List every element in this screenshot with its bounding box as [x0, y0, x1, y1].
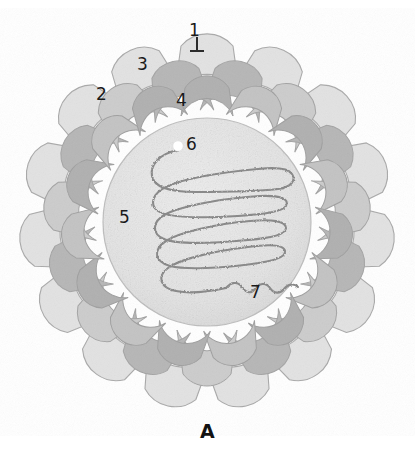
label-4: 4: [176, 92, 187, 109]
figure-panel: 1 2 3 4 5 6 7 A: [0, 0, 415, 458]
virus-particle-illustration: [0, 0, 415, 458]
label-5: 5: [119, 209, 130, 226]
label-6: 6: [186, 136, 197, 153]
panel-label: A: [0, 420, 415, 442]
label-1: 1: [189, 22, 200, 39]
label-3: 3: [137, 56, 148, 73]
genome-end-marker-dot: [173, 141, 183, 151]
label-2: 2: [96, 86, 107, 103]
leader-tick-1: [190, 50, 204, 52]
label-7: 7: [250, 284, 261, 301]
